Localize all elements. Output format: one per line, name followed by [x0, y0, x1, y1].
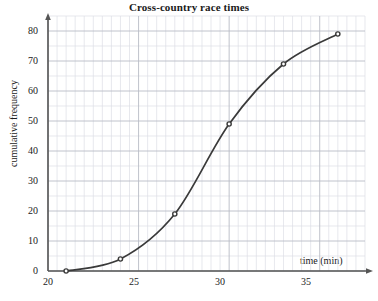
data-point-marker [227, 122, 231, 126]
grid-minor-lines [48, 16, 365, 271]
axis-lines [45, 13, 373, 274]
data-point-marker [281, 62, 285, 66]
grid-major-lines [48, 16, 365, 271]
data-point-marker [118, 257, 122, 261]
chart-container: Cross-country race times cumulative freq… [0, 0, 378, 301]
data-point-marker [64, 269, 68, 273]
chart-canvas [0, 0, 378, 301]
data-point-marker [173, 212, 177, 216]
data-point-marker [336, 32, 340, 36]
